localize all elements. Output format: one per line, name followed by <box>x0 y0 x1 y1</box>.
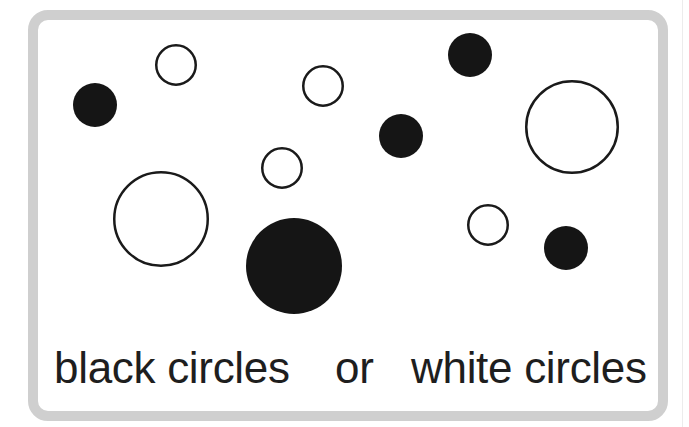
white-circle <box>526 81 618 173</box>
black-circle <box>448 33 492 77</box>
black-circle <box>73 83 117 127</box>
caption-black-circles: black circles <box>54 343 290 393</box>
white-circle <box>468 205 508 245</box>
black-circle <box>246 218 342 314</box>
caption-white-circles: white circles <box>411 343 647 393</box>
white-circle <box>303 66 343 106</box>
black-circle <box>544 226 588 270</box>
white-circle <box>156 45 196 85</box>
black-circle <box>379 114 423 158</box>
white-circle <box>114 172 208 266</box>
caption-or: or <box>335 343 374 393</box>
white-circle <box>262 148 302 188</box>
